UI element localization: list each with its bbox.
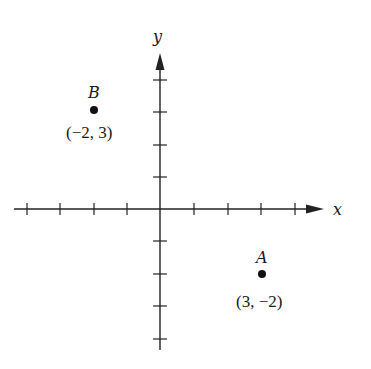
point-a-dot — [258, 270, 266, 278]
point-a-coordinates: (3, −2) — [236, 292, 282, 311]
x-axis-arrow-icon — [306, 205, 324, 214]
point-b-coordinates: (−2, 3) — [66, 123, 112, 142]
point-a: A (3, −2) — [236, 248, 282, 311]
coordinate-plane: x y B (−2, 3) A (3, −2) — [0, 0, 371, 369]
point-b: B (−2, 3) — [66, 83, 112, 142]
y-axis-label: y — [152, 27, 163, 46]
point-a-name: A — [254, 248, 268, 267]
y-axis-arrow-icon — [156, 53, 165, 70]
x-axis-label: x — [333, 200, 342, 219]
point-b-name: B — [87, 83, 100, 102]
point-b-dot — [90, 106, 98, 114]
